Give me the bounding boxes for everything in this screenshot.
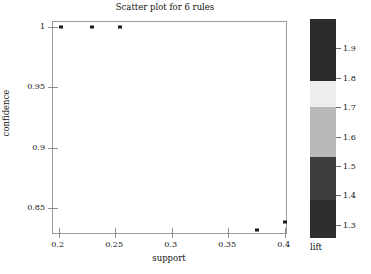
- colorbar-tick-label: 1.7: [343, 103, 356, 112]
- colorbar-tick-label: 1.5: [343, 161, 356, 170]
- colorbar-band: [310, 81, 336, 107]
- x-axis-tick-inner: [172, 228, 173, 233]
- colorbar-tick: [336, 225, 341, 226]
- x-axis-tick-label: 0.25: [105, 240, 123, 249]
- scatter-point: [59, 25, 63, 28]
- y-axis-tick-inner: [53, 208, 58, 209]
- scatter-point: [283, 220, 287, 223]
- x-axis-tick: [172, 233, 173, 238]
- y-axis-tick-inner: [53, 148, 58, 149]
- x-axis-tick-inner: [285, 228, 286, 233]
- chart-root: Scatter plot for 6 rules confidence supp…: [0, 0, 371, 274]
- x-axis-tick: [228, 233, 229, 238]
- colorbar-band: [310, 200, 336, 238]
- x-axis-tick: [59, 233, 60, 238]
- plot-area: [52, 21, 287, 234]
- y-axis-tick-label: 1: [40, 21, 45, 30]
- colorbar-tick: [336, 78, 341, 79]
- colorbar: 1.31.41.51.61.71.81.9: [310, 19, 336, 238]
- x-axis-tick-inner: [115, 228, 116, 233]
- colorbar-tick-label: 1.4: [343, 191, 356, 200]
- y-axis-tick-inner: [53, 87, 58, 88]
- colorbar-band: [310, 19, 336, 81]
- chart-title: Scatter plot for 6 rules: [75, 2, 255, 12]
- colorbar-tick: [336, 166, 341, 167]
- colorbar-tick: [336, 107, 341, 108]
- x-axis-tick-inner: [59, 228, 60, 233]
- y-axis-title: confidence: [1, 90, 11, 137]
- scatter-point: [118, 25, 122, 28]
- colorbar-tick-label: 1.6: [343, 132, 356, 141]
- scatter-point: [255, 229, 259, 232]
- scatter-point: [90, 25, 94, 28]
- colorbar-tick: [336, 48, 341, 49]
- colorbar-tick-label: 1.8: [343, 73, 356, 82]
- y-axis-tick-label: 0.95: [27, 82, 45, 91]
- y-axis-tick-label: 0.9: [32, 142, 45, 151]
- y-axis-tick-label: 0.85: [27, 202, 45, 211]
- x-axis-tick-label: 0.2: [51, 240, 64, 249]
- x-axis-tick: [285, 233, 286, 238]
- colorbar-band: [310, 107, 336, 157]
- x-axis-tick-inner: [228, 228, 229, 233]
- colorbar-tick-label: 1.3: [343, 220, 356, 229]
- x-axis-tick-label: 0.4: [277, 240, 290, 249]
- x-axis-tick-label: 0.3: [164, 240, 177, 249]
- colorbar-band: [310, 157, 336, 200]
- colorbar-tick: [336, 195, 341, 196]
- x-axis-tick-label: 0.35: [218, 240, 236, 249]
- colorbar-gradient: [310, 19, 336, 238]
- y-axis-tick-inner: [53, 27, 58, 28]
- x-axis-tick: [115, 233, 116, 238]
- colorbar-tick: [336, 137, 341, 138]
- colorbar-tick-label: 1.9: [343, 44, 356, 53]
- colorbar-title: lift: [310, 242, 322, 252]
- x-axis-title: support: [152, 253, 185, 263]
